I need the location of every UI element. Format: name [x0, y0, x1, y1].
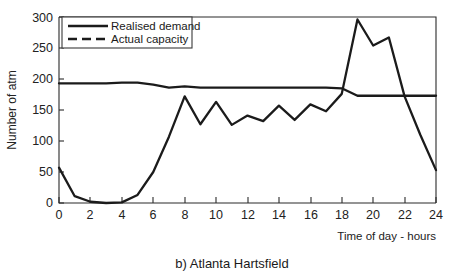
y-tick-label: 200 [32, 72, 53, 86]
x-tick-label: 12 [241, 208, 255, 222]
x-tick-label: 18 [335, 208, 349, 222]
x-tick-label: 2 [87, 208, 94, 222]
y-axis-tick-labels: 0 50 100 150 200 250 300 [32, 11, 53, 210]
y-axis-title: Number of atm [5, 70, 19, 149]
x-axis-title: Time of day - hours [337, 230, 436, 242]
figure-container: 0 50 100 150 200 250 300 0 2 [0, 0, 451, 277]
y-tick-label: 250 [32, 41, 53, 55]
series-line-actual-capacity [59, 83, 436, 96]
x-tick-label: 4 [119, 208, 126, 222]
x-tick-label: 16 [304, 208, 318, 222]
legend-label-actual-capacity: Actual capacity [111, 33, 189, 45]
x-tick-label: 8 [182, 208, 189, 222]
x-tick-label: 0 [56, 208, 63, 222]
x-tick-label: 22 [398, 208, 412, 222]
y-tick-label: 0 [46, 196, 53, 210]
legend: Realised demand Actual capacity [62, 17, 201, 48]
y-tick-label: 300 [32, 11, 53, 25]
line-chart: 0 50 100 150 200 250 300 0 2 [0, 0, 451, 277]
x-axis-tick-labels: 0 2 4 6 8 10 12 14 16 18 20 22 24 [56, 208, 443, 222]
y-tick-label: 150 [32, 103, 53, 117]
y-tick-label: 100 [32, 134, 53, 148]
x-tick-label: 6 [150, 208, 157, 222]
y-tick-label: 50 [39, 165, 53, 179]
x-tick-label: 24 [429, 208, 443, 222]
x-tick-label: 14 [272, 208, 286, 222]
figure-caption: b) Atlanta Hartsfield [175, 256, 288, 271]
x-tick-label: 10 [209, 208, 223, 222]
x-tick-label: 20 [366, 208, 380, 222]
legend-label-realised-demand: Realised demand [111, 20, 201, 32]
